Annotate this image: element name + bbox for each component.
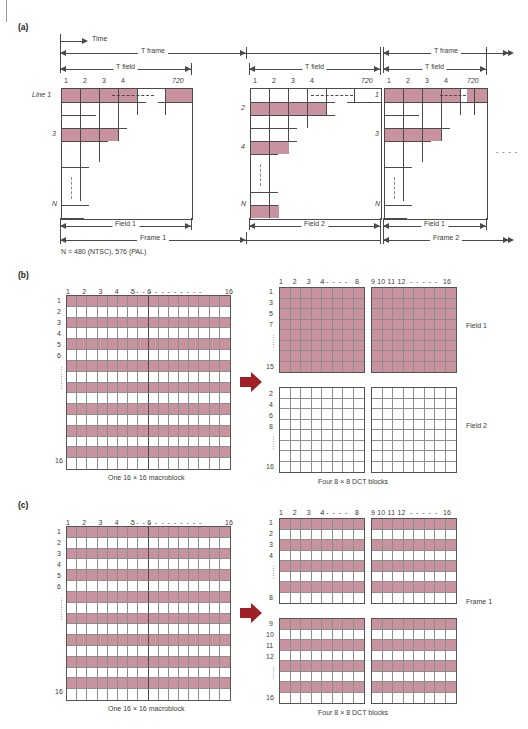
grid-cell xyxy=(393,451,404,462)
grid-cell xyxy=(169,350,179,361)
grid-cell xyxy=(98,415,108,426)
grid-cell xyxy=(77,668,87,679)
grid-cell xyxy=(425,399,436,410)
grid-cell xyxy=(425,388,436,399)
grid-cell xyxy=(333,530,344,541)
grid-cell xyxy=(343,409,354,420)
grid-cell xyxy=(414,362,425,373)
grid-cell xyxy=(128,372,138,383)
grid-cell xyxy=(179,372,189,383)
grid-cell xyxy=(354,661,365,672)
grid-cell xyxy=(435,640,446,651)
a1-row-N: N xyxy=(52,200,57,207)
grid-cell xyxy=(67,383,77,394)
a3-frame-dim: Frame 2 xyxy=(383,236,509,245)
grid-cell xyxy=(220,404,230,415)
grid-cell xyxy=(393,561,404,572)
grid-cell xyxy=(435,362,446,373)
grid-cell xyxy=(77,581,87,592)
c-blk-top-row-3: 3 xyxy=(269,541,273,548)
grid-cell xyxy=(138,328,148,339)
grid-cell xyxy=(199,393,209,404)
grid-cell xyxy=(312,630,323,641)
grid-cell xyxy=(67,603,77,614)
c-blk-col-left-8: 8 xyxy=(355,509,359,516)
grid-cell xyxy=(425,341,436,352)
grid-cell xyxy=(372,451,383,462)
grid-cell xyxy=(383,420,394,431)
grid-cell xyxy=(404,561,415,572)
grid-cell xyxy=(333,551,344,562)
grid-cell xyxy=(404,530,415,541)
grid-cell xyxy=(149,689,159,700)
grid-cell xyxy=(138,624,148,635)
grid-cell xyxy=(446,619,457,630)
grid-cell xyxy=(333,593,344,604)
grid-cell xyxy=(199,657,209,668)
grid-cell xyxy=(98,689,108,700)
grid-cell xyxy=(333,320,344,331)
c-dct-block-bottom-right xyxy=(371,618,457,704)
grid-cell xyxy=(383,661,394,672)
grid-cell xyxy=(383,551,394,562)
grid-cell xyxy=(179,393,189,404)
grid-cell xyxy=(343,320,354,331)
grid-cell xyxy=(383,288,394,299)
grid-cell xyxy=(383,672,394,683)
c-mb-row-5: 5 xyxy=(57,572,61,579)
grid-cell xyxy=(372,420,383,431)
grid-cell xyxy=(343,388,354,399)
grid-cell xyxy=(98,592,108,603)
grid-cell xyxy=(220,592,230,603)
c-mb-row-6: 6 xyxy=(57,583,61,590)
grid-cell xyxy=(404,351,415,362)
grid-cell xyxy=(67,624,77,635)
grid-cell xyxy=(138,372,148,383)
grid-cell xyxy=(435,320,446,331)
a3-scan-line1b xyxy=(467,89,487,102)
a1-rule-bf xyxy=(191,218,192,230)
grid-cell xyxy=(301,420,312,431)
grid-cell xyxy=(108,426,118,437)
grid-cell xyxy=(343,682,354,693)
grid-cell xyxy=(425,288,436,299)
grid-cell xyxy=(291,462,302,473)
grid-cell xyxy=(435,462,446,473)
grid-cell xyxy=(118,678,128,689)
c-blk-bot-row-11: 11 xyxy=(266,642,273,649)
grid-cell xyxy=(435,288,446,299)
grid-cell xyxy=(280,661,291,672)
grid-cell xyxy=(435,341,446,352)
grid-cell xyxy=(87,570,97,581)
grid-cell xyxy=(210,426,220,437)
grid-cell xyxy=(393,572,404,583)
grid-cell xyxy=(189,635,199,646)
grid-cell xyxy=(343,561,354,572)
grid-cell xyxy=(118,361,128,372)
grid-cell xyxy=(118,383,128,394)
grid-cell xyxy=(169,689,179,700)
a2-raster-box xyxy=(250,88,382,220)
b-macroblock-grid xyxy=(66,295,231,470)
grid-cell xyxy=(280,651,291,662)
grid-cell xyxy=(333,682,344,693)
grid-cell xyxy=(312,320,323,331)
grid-cell xyxy=(108,383,118,394)
grid-cell xyxy=(383,593,394,604)
grid-cell xyxy=(333,420,344,431)
grid-cell xyxy=(414,651,425,662)
grid-cell xyxy=(354,672,365,683)
grid-cell xyxy=(393,362,404,373)
grid-cell xyxy=(67,393,77,404)
grid-cell xyxy=(179,646,189,657)
grid-cell xyxy=(128,350,138,361)
grid-cell xyxy=(169,339,179,350)
grid-cell xyxy=(138,447,148,458)
grid-cell xyxy=(169,318,179,329)
grid-cell xyxy=(354,519,365,530)
grid-cell xyxy=(149,328,159,339)
grid-cell xyxy=(446,288,457,299)
grid-cell xyxy=(189,426,199,437)
grid-cell xyxy=(199,350,209,361)
transform-right-arrow-icon xyxy=(240,372,262,392)
